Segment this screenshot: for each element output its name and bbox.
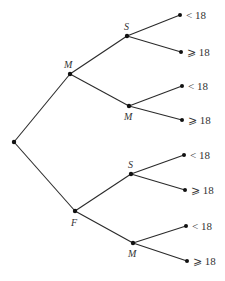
tree-edge: [131, 174, 185, 190]
tree-edge: [70, 74, 129, 106]
tree-edge: [75, 211, 133, 243]
leaf-label-l5: < 18: [190, 149, 210, 161]
tree-edge: [70, 36, 127, 74]
tree-edge: [129, 106, 182, 120]
tree-edge: [131, 155, 184, 174]
tree-node-s_f: [129, 172, 133, 176]
tree-edge: [14, 74, 70, 142]
tree-edge: [75, 174, 131, 211]
node-label-f1: F: [70, 217, 78, 228]
leaf-label-l6: ⩾ 18: [191, 184, 214, 196]
leaf-label-l4: ⩾ 18: [188, 114, 211, 126]
tree-edge: [129, 86, 182, 106]
leaf-node-l2: [179, 50, 183, 54]
tree-svg: MFSMSM< 18⩾ 18< 18⩾ 18< 18⩾ 18< 18⩾ 18: [0, 0, 225, 281]
leaf-label-l7: < 18: [192, 220, 212, 232]
probability-tree-diagram: MFSMSM< 18⩾ 18< 18⩾ 18< 18⩾ 18< 18⩾ 18: [0, 0, 225, 281]
leaf-label-l2: ⩾ 18: [187, 46, 210, 58]
leaf-node-l7: [184, 224, 188, 228]
node-label-s_m: S: [124, 21, 129, 32]
leaf-node-l3: [180, 84, 184, 88]
leaf-node-l4: [180, 118, 184, 122]
node-label-s_f: S: [128, 159, 133, 170]
leaf-node-l8: [185, 259, 189, 263]
leaf-node-l1: [178, 13, 182, 17]
node-label-m_m: M: [123, 111, 133, 122]
leaf-node-l5: [182, 153, 186, 157]
tree-node-m_f: [131, 241, 135, 245]
tree-node-f1: [73, 209, 77, 213]
tree-edge: [14, 142, 75, 211]
tree-node-m1: [68, 72, 72, 76]
leaf-node-l6: [183, 188, 187, 192]
node-label-m1: M: [63, 59, 73, 70]
leaf-label-l3: < 18: [188, 80, 208, 92]
tree-edge: [133, 226, 186, 243]
tree-edge: [133, 243, 187, 261]
tree-edge: [127, 36, 181, 52]
tree-node-m_m: [127, 104, 131, 108]
tree-edge: [127, 15, 180, 36]
leaf-label-l8: ⩾ 18: [193, 255, 216, 267]
root-node: [12, 140, 16, 144]
node-label-m_f: M: [127, 248, 137, 259]
tree-node-s_m: [125, 34, 129, 38]
leaf-label-l1: < 18: [186, 9, 206, 21]
